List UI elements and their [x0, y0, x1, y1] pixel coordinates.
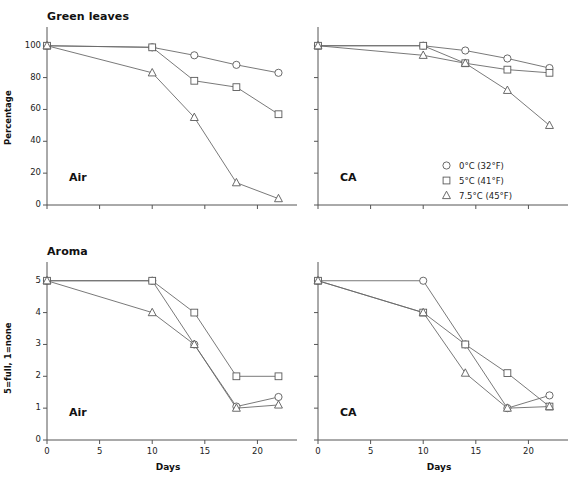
series-line-triangle — [318, 46, 549, 126]
x-tick-label: 20 — [242, 446, 272, 456]
data-point-square — [191, 309, 198, 316]
y-tick-label: 1 — [11, 402, 41, 412]
triangle-marker — [441, 190, 452, 201]
series-line-circle — [47, 46, 278, 73]
x-axis-title: Days — [399, 462, 479, 472]
data-point-square — [504, 370, 511, 377]
panel-tag-br: CA — [340, 406, 357, 419]
square-marker-glyph — [443, 177, 450, 184]
triangle-marker-glyph — [443, 191, 451, 198]
chart-panel-green-leaves-air: 020406080100PercentageGreen leavesAir — [47, 33, 289, 205]
series-line-square — [47, 46, 278, 114]
plot-area-green-leaves-air — [47, 33, 305, 215]
panel-tag-tl: Air — [69, 171, 87, 184]
y-tick-label: 80 — [11, 72, 41, 82]
series-line-triangle — [47, 281, 278, 408]
figure-root: 020406080100PercentageGreen leavesAirCA0… — [0, 0, 583, 486]
chart-panel-aroma-air: 01234505101520Days5=full, 1=noneAromaAir — [47, 268, 289, 440]
x-tick-label: 15 — [190, 446, 220, 456]
y-tick-label: 100 — [11, 40, 41, 50]
y-tick-label: 20 — [11, 167, 41, 177]
legend-item: 5°C (41°F) — [441, 173, 512, 188]
series-line-circle — [47, 281, 278, 407]
x-axis-title: Days — [128, 462, 208, 472]
legend-label: 5°C (41°F) — [459, 176, 504, 186]
legend-item: 0°C (32°F) — [441, 158, 512, 173]
data-point-square — [462, 341, 469, 348]
data-point-triangle — [503, 86, 511, 93]
y-tick-label: 3 — [11, 338, 41, 348]
legend: 0°C (32°F)5°C (41°F)7.5°C (45°F) — [441, 158, 512, 203]
data-point-circle — [275, 393, 282, 400]
data-point-circle — [546, 392, 553, 399]
data-point-square — [233, 84, 240, 91]
x-tick-label: 20 — [513, 446, 543, 456]
x-tick-label: 10 — [408, 446, 438, 456]
series-line-triangle — [318, 281, 549, 408]
data-point-square — [149, 277, 156, 284]
y-axis-title: 5=full, 1=none — [3, 322, 13, 394]
data-point-square — [149, 44, 156, 51]
x-tick-label: 10 — [137, 446, 167, 456]
series-line-square — [47, 281, 278, 377]
plot-area-aroma-air — [47, 268, 305, 450]
y-axis-title: Percentage — [3, 90, 13, 145]
x-tick-label: 0 — [303, 446, 333, 456]
x-tick-label: 0 — [32, 446, 62, 456]
data-point-triangle — [546, 121, 554, 128]
x-tick-label: 5 — [85, 446, 115, 456]
series-line-circle — [318, 281, 549, 408]
data-point-circle — [462, 47, 469, 54]
data-point-square — [504, 66, 511, 73]
data-point-circle — [504, 55, 511, 62]
series-line-square — [318, 46, 549, 73]
data-point-square — [275, 111, 282, 118]
data-point-square — [275, 373, 282, 380]
data-point-circle — [275, 69, 282, 76]
data-point-circle — [191, 52, 198, 59]
data-point-triangle — [232, 178, 240, 185]
chart-panel-green-leaves-ca: CA — [318, 33, 560, 205]
y-tick-label: 0 — [11, 199, 41, 209]
panel-tag-tr: CA — [340, 171, 357, 184]
y-tick-label: 0 — [11, 434, 41, 444]
y-tick-label: 40 — [11, 135, 41, 145]
legend-label: 7.5°C (45°F) — [459, 191, 512, 201]
data-point-square — [191, 77, 198, 84]
panel-tag-bl: Air — [69, 406, 87, 419]
data-point-square — [420, 42, 427, 49]
legend-item: 7.5°C (45°F) — [441, 188, 512, 203]
y-tick-label: 4 — [11, 307, 41, 317]
circle-marker-glyph — [443, 162, 450, 169]
panel-heading-bl: Aroma — [47, 245, 88, 258]
data-point-square — [233, 373, 240, 380]
x-tick-label: 5 — [356, 446, 386, 456]
y-tick-label: 60 — [11, 103, 41, 113]
panel-heading-tl: Green leaves — [47, 10, 129, 23]
legend-label: 0°C (32°F) — [459, 161, 504, 171]
data-point-triangle — [275, 401, 283, 408]
plot-area-aroma-ca — [318, 268, 576, 450]
series-line-square — [318, 281, 549, 407]
data-point-square — [546, 69, 553, 76]
circle-marker — [441, 160, 452, 171]
square-marker — [441, 175, 452, 186]
y-tick-label: 5 — [11, 275, 41, 285]
y-tick-label: 2 — [11, 370, 41, 380]
data-point-circle — [420, 277, 427, 284]
data-point-circle — [233, 61, 240, 68]
x-tick-label: 15 — [461, 446, 491, 456]
chart-panel-aroma-ca: 05101520DaysCA — [318, 268, 560, 440]
